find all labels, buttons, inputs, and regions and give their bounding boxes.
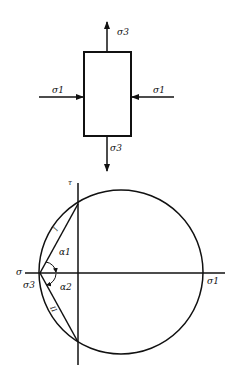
- stress-element: [39, 22, 174, 171]
- tau-axis-label: τ: [68, 180, 72, 187]
- alpha2-label: α2: [60, 283, 72, 292]
- element-rectangle: [84, 52, 131, 136]
- mohr-diagram: [25, 183, 225, 365]
- diagram-canvas: [0, 0, 238, 384]
- alpha1-label: α1: [59, 248, 71, 257]
- sigma3-top-label: σ3: [117, 28, 129, 37]
- sigma3-circle-label: σ3: [23, 281, 35, 290]
- sigma3-bottom-label: σ3: [110, 144, 122, 153]
- sigma1-left-label: σ1: [52, 86, 64, 95]
- alpha2-arc: [47, 274, 56, 285]
- mohr-circle: [39, 190, 203, 354]
- sigma-axis-label: σ: [16, 268, 22, 277]
- sigma1-circle-label: σ1: [207, 277, 219, 286]
- sigma1-right-label: σ1: [153, 86, 165, 95]
- figure: σ3 σ3 σ1 σ1 τ σ σ3 σ1 α1 α2 I II: [0, 0, 238, 384]
- alpha1-arc: [46, 262, 56, 272]
- failure-line-2: [40, 273, 78, 342]
